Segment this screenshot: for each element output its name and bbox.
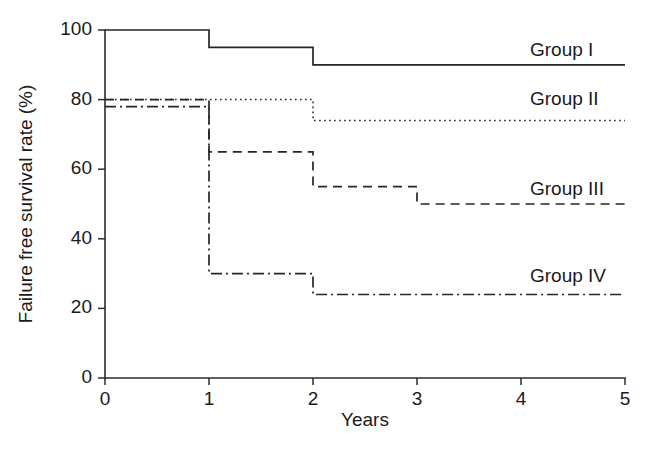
series-label-group-ii: Group II: [530, 88, 599, 109]
y-axis-title: Failure free survival rate (%): [15, 85, 36, 324]
series-label-group-i: Group I: [530, 39, 593, 60]
x-axis-ticks: 012345: [100, 378, 631, 409]
kaplan-meier-chart: 020406080100 012345 Group IGroup IIGroup…: [0, 0, 656, 461]
y-axis-ticks: 020406080100: [60, 18, 105, 387]
series-labels: Group IGroup IIGroup IIIGroup IV: [530, 39, 606, 286]
y-tick-label: 60: [71, 157, 92, 178]
x-tick-label: 1: [204, 388, 215, 409]
y-tick-label: 40: [71, 227, 92, 248]
x-tick-label: 5: [620, 388, 631, 409]
series-label-group-iii: Group III: [530, 178, 604, 199]
chart-container: 020406080100 012345 Group IGroup IIGroup…: [0, 0, 656, 461]
y-tick-label: 80: [71, 88, 92, 109]
x-tick-label: 3: [412, 388, 423, 409]
x-axis-title: Years: [341, 409, 389, 430]
x-tick-label: 0: [100, 388, 111, 409]
y-tick-label: 100: [60, 18, 92, 39]
x-tick-label: 4: [516, 388, 527, 409]
series-label-group-iv: Group IV: [530, 265, 606, 286]
y-tick-label: 0: [81, 366, 92, 387]
y-tick-label: 20: [71, 296, 92, 317]
data-curves: [105, 30, 625, 294]
x-tick-label: 2: [308, 388, 319, 409]
